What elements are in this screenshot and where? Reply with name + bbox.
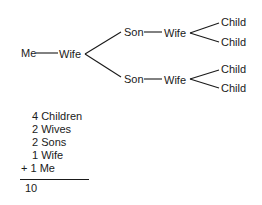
edge-wife-child-1 bbox=[190, 23, 219, 33]
node-son-bottom: Son bbox=[124, 73, 144, 85]
summary-row-me: + 1 Me bbox=[21, 162, 55, 174]
node-son-top: Son bbox=[124, 26, 144, 38]
node-child-2: Child bbox=[221, 36, 246, 48]
node-child-1: Child bbox=[221, 16, 246, 28]
sum-divider bbox=[20, 179, 89, 180]
summary-row-wives: 2 Wives bbox=[32, 123, 71, 135]
node-child-4: Child bbox=[221, 82, 246, 94]
edge-wife-child-3 bbox=[190, 70, 219, 79]
summary-row-sons: 2 Sons bbox=[32, 136, 66, 148]
edge-wife-son-bottom bbox=[85, 54, 121, 77]
edge-wife-son-top bbox=[85, 32, 121, 54]
node-wife: Wife bbox=[59, 48, 81, 60]
node-son-top-wife: Wife bbox=[164, 27, 186, 39]
edge-wife-child-2 bbox=[190, 33, 219, 42]
node-me: Me bbox=[21, 47, 36, 59]
summary-row-children: 4 Children bbox=[32, 110, 82, 122]
summary-row-wife: 1 Wife bbox=[32, 149, 63, 161]
node-son-bottom-wife: Wife bbox=[164, 74, 186, 86]
node-child-3: Child bbox=[221, 63, 246, 75]
summary-total: 10 bbox=[25, 182, 37, 194]
edge-wife-child-4 bbox=[190, 79, 219, 88]
